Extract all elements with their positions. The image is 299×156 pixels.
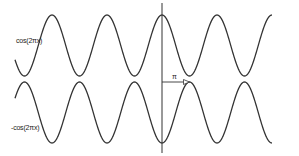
negative-cosine-wave	[15, 82, 272, 143]
phase-shift-label: π	[172, 73, 177, 80]
bottom-wave-label: -cos(2πx)	[11, 124, 39, 131]
phase-shift-diagram: cos(2πx) -cos(2πx) π	[0, 0, 299, 156]
cosine-wave	[15, 15, 272, 76]
waves-plot	[0, 0, 299, 156]
top-wave-label: cos(2πx)	[16, 37, 42, 44]
